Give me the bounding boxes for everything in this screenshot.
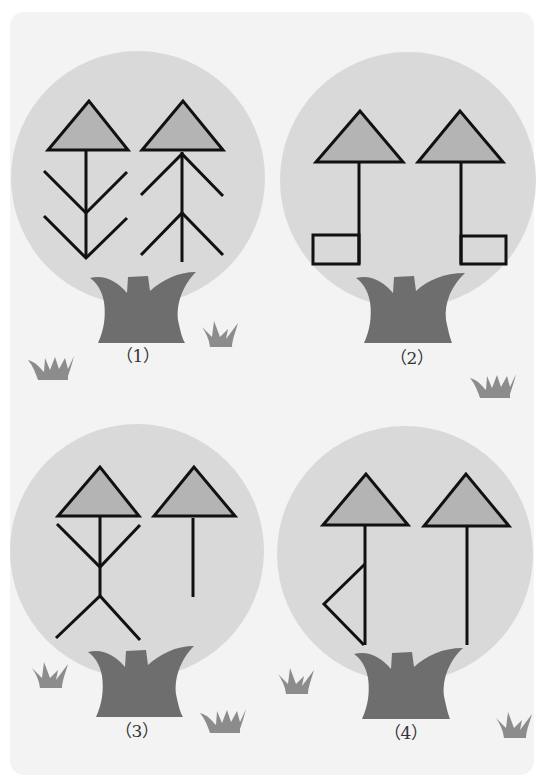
grass-tuft [496, 712, 532, 738]
canopy-circle [280, 52, 536, 308]
panel-label-4: （4） [366, 723, 446, 743]
puzzle-illustration [0, 0, 544, 783]
grass-tuft [200, 709, 246, 733]
panel-4 [277, 426, 533, 738]
panel-3 [10, 424, 264, 733]
panel-label-2: （2） [372, 348, 452, 368]
grass-tuft [278, 668, 314, 694]
canopy-circle [277, 426, 533, 682]
canopy-circle [10, 424, 264, 678]
grass-tuft [32, 662, 68, 688]
tree-trunk [356, 273, 465, 343]
grass-tuft [470, 374, 516, 398]
panel-1 [11, 51, 265, 380]
tree-trunk [354, 648, 463, 719]
grass-tuft [202, 321, 238, 347]
panel-2 [280, 52, 536, 398]
tree-trunk [90, 272, 196, 343]
panel-label-1: （1） [98, 346, 178, 366]
panel-label-3: （3） [97, 721, 177, 741]
grass-tuft [28, 356, 74, 380]
tree-trunk [88, 646, 194, 717]
